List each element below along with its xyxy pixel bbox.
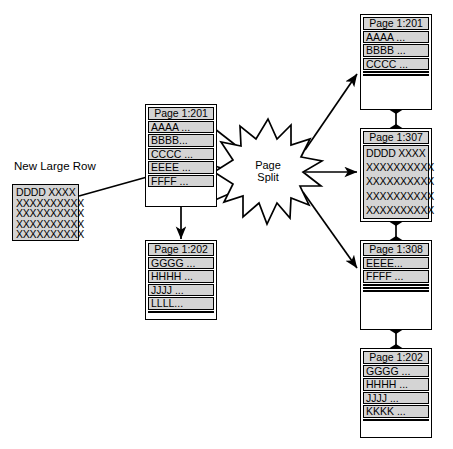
page-row: AAAA ... [148,121,214,134]
page-box-after-202: Page 1:202 GGGG ... HHHH ... JJJJ ... KK… [360,348,432,438]
page-row: KKKK ... [363,405,429,418]
page-box-before-201: Page 1:201 AAAA ... BBBB... CCCC ... EEE… [145,104,217,207]
page-row-empty [363,287,429,289]
page-row-empty [363,290,429,292]
page-row: EEEE... [363,257,429,270]
page-large-row-line: XXXXXXXXXX [366,176,426,187]
page-row: BBBB... [148,134,214,147]
page-large-row-line: XXXXXXXXXX [366,205,426,216]
page-header: Page 1:307 [363,131,429,144]
page-row-empty [363,419,429,421]
page-box-after-308: Page 1:308 EEEE... FFFF ... [360,240,432,330]
page-row-empty [363,71,429,73]
page-row-empty [363,284,429,286]
diagram-canvas: New Large Row DDDD XXXX XXXXXXXXXX XXXXX… [0,0,453,449]
page-header: Page 1:202 [363,351,429,364]
new-large-row-line: XXXXXXXXXX [16,229,75,240]
link-split-to-page308 [303,192,357,268]
page-row: CCCC ... [363,58,429,71]
page-header: Page 1:201 [363,17,429,30]
page-row: AAAA ... [363,31,429,44]
page-row: JJJJ ... [148,284,214,297]
page-row: FFFF ... [148,175,214,188]
page-row: FFFF ... [363,270,429,283]
link-split-to-page201-after [305,74,357,150]
page-split-label: Page Split [240,159,296,183]
new-large-row-line: DDDD XXXX [16,187,75,198]
page-box-before-202: Page 1:202 GGGG ... HHHH ... JJJJ ... LL… [145,240,217,320]
page-large-row-line: XXXXXXXXXX [366,162,426,173]
page-row-empty [363,74,429,76]
page-box-after-201: Page 1:201 AAAA ... BBBB ... CCCC ... [360,14,432,110]
page-row: HHHH ... [363,378,429,391]
page-box-after-307: Page 1:307 DDDD XXXX XXXXXXXXXX XXXXXXXX… [360,128,432,222]
page-row: LLLL... [148,297,214,310]
page-row: HHHH ... [148,270,214,283]
page-row: EEEE ... [148,161,214,174]
page-row: JJJJ ... [363,392,429,405]
page-large-row-line: DDDD XXXX [366,148,426,159]
new-large-row-block: DDDD XXXX XXXXXXXXXX XXXXXXXXXX XXXXXXXX… [12,184,79,241]
page-header: Page 1:308 [363,243,429,256]
page-large-row-line: XXXXXXXXXX [366,191,426,202]
page-row: BBBB ... [363,44,429,57]
page-header: Page 1:201 [148,107,214,120]
page-row: GGGG ... [363,365,429,378]
page-row: GGGG ... [148,257,214,270]
new-large-row-line: XXXXXXXXXX [16,208,75,219]
new-large-row-caption: New Large Row [14,160,96,172]
page-row: CCCC ... [148,148,214,161]
page-row-empty [148,311,214,313]
page-header: Page 1:202 [148,243,214,256]
page-large-row-body: DDDD XXXX XXXXXXXXXX XXXXXXXXXX XXXXXXXX… [363,145,429,220]
